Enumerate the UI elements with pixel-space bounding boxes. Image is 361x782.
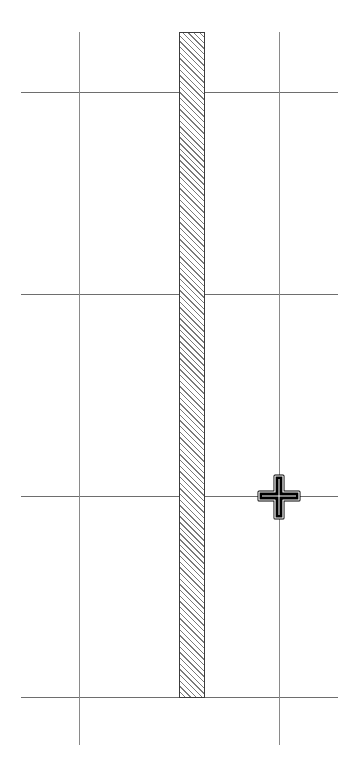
grid-line-vertical (279, 32, 280, 745)
grid-line-vertical (79, 32, 80, 745)
drawing-canvas[interactable] (0, 0, 361, 782)
move-cursor-icon (255, 472, 303, 522)
wall-element[interactable] (179, 32, 205, 698)
